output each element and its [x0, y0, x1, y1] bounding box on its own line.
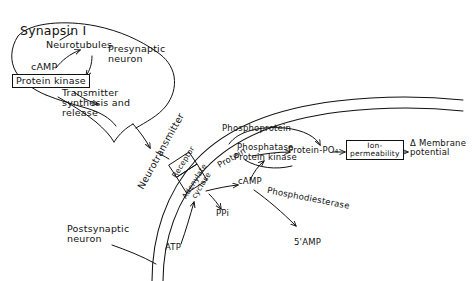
- title-synapsin-i: Synapsin I: [20, 24, 86, 37]
- arrow-atp-cyclase: [181, 202, 194, 244]
- arrow-camp-neurotubules: [56, 50, 80, 68]
- label-neurotubules: Neurotubules: [46, 40, 112, 50]
- label-protein-po4: Protein-PO₄: [288, 146, 338, 155]
- label-membrane-potential: Δ Membrane potential: [410, 139, 466, 157]
- label-camp-presynaptic: cAMP: [31, 62, 57, 72]
- postsynaptic-leader: [112, 245, 156, 264]
- label-phosphatase: Phosphatase: [237, 143, 294, 152]
- label-postsynaptic-neuron: Postsynaptic neuron: [67, 224, 129, 244]
- label-atp: ATP: [165, 243, 181, 252]
- diagram-canvas: Synapsin I Neurotubules Presynaptic neur…: [0, 0, 472, 281]
- arrow-release-neurotransmitter: [133, 124, 150, 148]
- label-protein-kinase-presynaptic: Protein kinase: [12, 74, 90, 88]
- label-ppi: PPi: [216, 209, 229, 218]
- arrow-cyclase-camp: [206, 185, 238, 191]
- arrow-neurotubules-down: [86, 56, 92, 76]
- label-camp-postsynaptic: cAMP: [238, 177, 262, 186]
- label-transmitter-synthesis-release: Transmitter synthesis and release: [62, 88, 130, 118]
- label-phosphoprotein: Phosphoprotein: [222, 124, 291, 133]
- label-presynaptic-neuron: Presynaptic neuron: [108, 44, 165, 64]
- arrow-ppi: [209, 194, 221, 209]
- presynaptic-inner-line-2: [114, 124, 133, 142]
- label-5-amp: 5'AMP: [294, 238, 321, 247]
- label-ion-permeability: Ion- permeability: [346, 140, 404, 160]
